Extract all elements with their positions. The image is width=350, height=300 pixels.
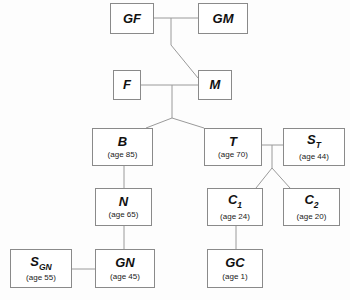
node-age-label: (age 70): [218, 150, 248, 159]
edge-t-st-to-c2: [272, 168, 290, 188]
edge-parents-to-t: [172, 118, 204, 128]
node-age-label: (age 45): [110, 272, 140, 281]
node-label: C2: [304, 193, 318, 210]
node-c2[interactable]: C2(age 20): [283, 188, 340, 226]
node-sgn[interactable]: SGN(age 55): [10, 249, 72, 288]
node-label: M: [210, 78, 221, 92]
node-age-label: (age 55): [26, 273, 56, 282]
node-age-label: (age 44): [299, 152, 329, 161]
node-age-label: (age 65): [109, 210, 139, 219]
family-tree-diagram: GFGMFMB(age 85)T(age 70)ST(age 44)N(age …: [0, 0, 350, 300]
node-age-label: (age 85): [108, 150, 138, 159]
node-b[interactable]: B(age 85): [92, 128, 153, 166]
node-label: GN: [115, 256, 135, 270]
node-gf[interactable]: GF: [110, 3, 154, 34]
node-label-subscript: 1: [237, 200, 242, 210]
node-label: GM: [213, 12, 234, 26]
node-label: N: [119, 195, 128, 209]
node-age-label: (age 20): [297, 212, 327, 221]
edge-grandparents-to-m: [171, 18, 198, 78]
node-age-label: (age 1): [222, 272, 247, 281]
node-c1[interactable]: C1(age 24): [207, 188, 263, 226]
node-label: GC: [225, 256, 245, 270]
node-label-subscript: 2: [314, 200, 319, 210]
node-f[interactable]: F: [113, 70, 141, 100]
node-label: B: [118, 135, 127, 149]
node-gn[interactable]: GN(age 45): [95, 249, 155, 288]
edge-t-st-to-c1: [256, 168, 272, 188]
node-label: F: [123, 78, 131, 92]
node-label-subscript: GN: [39, 261, 52, 271]
node-label: GF: [123, 12, 141, 26]
node-label: C1: [228, 193, 242, 210]
node-st[interactable]: ST(age 44): [283, 128, 345, 166]
node-gc[interactable]: GC(age 1): [207, 249, 263, 288]
node-label-subscript: T: [316, 140, 321, 150]
node-label: T: [229, 135, 237, 149]
node-gm[interactable]: GM: [198, 3, 248, 34]
node-t[interactable]: T(age 70): [204, 128, 262, 166]
node-age-label: (age 24): [220, 212, 250, 221]
node-m[interactable]: M: [198, 70, 232, 100]
node-label: SGN: [30, 255, 51, 272]
node-n[interactable]: N(age 65): [95, 188, 152, 226]
edge-parents-to-b: [146, 118, 172, 128]
node-label: ST: [307, 133, 321, 150]
